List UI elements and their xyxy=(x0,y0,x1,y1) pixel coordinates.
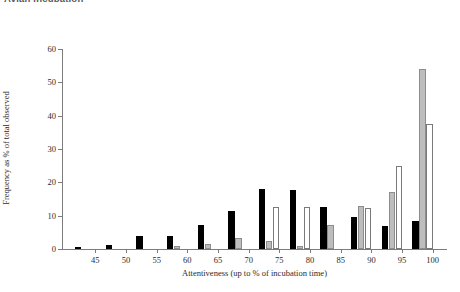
bar xyxy=(327,225,333,249)
bar xyxy=(320,207,326,249)
x-axis-tick xyxy=(126,249,127,253)
bar xyxy=(351,217,357,249)
plot-area: 0102030405060 4550556065707580859095100 xyxy=(62,49,447,249)
bar xyxy=(358,206,364,249)
x-axis-line xyxy=(62,249,447,250)
y-axis-tick xyxy=(58,49,62,50)
y-axis-tick xyxy=(58,216,62,217)
x-axis-label: Attentiveness (up to % of incubation tim… xyxy=(62,268,447,278)
y-axis-tick xyxy=(58,82,62,83)
bar xyxy=(382,226,388,249)
bar xyxy=(365,208,371,249)
y-axis-line xyxy=(62,49,63,249)
x-axis-tick-label: 50 xyxy=(122,255,131,265)
bar xyxy=(304,207,310,249)
bar xyxy=(198,225,204,249)
x-axis-tick-label: 45 xyxy=(91,255,100,265)
x-axis-tick xyxy=(218,249,219,253)
bar xyxy=(174,246,180,249)
x-axis-tick-label: 70 xyxy=(244,255,253,265)
x-axis-tick-label: 60 xyxy=(183,255,192,265)
x-axis-tick xyxy=(95,249,96,253)
bar xyxy=(259,189,265,249)
bar xyxy=(106,245,112,249)
x-axis-tick-label: 55 xyxy=(152,255,161,265)
y-axis-tick xyxy=(58,116,62,117)
y-axis-tick xyxy=(58,249,62,250)
bar xyxy=(297,246,303,249)
x-axis-tick xyxy=(279,249,280,253)
bar xyxy=(412,221,418,249)
bar xyxy=(136,236,142,249)
x-axis-tick xyxy=(371,249,372,253)
x-axis-tick-label: 95 xyxy=(398,255,407,265)
bar xyxy=(228,211,234,249)
x-axis-tick-label: 80 xyxy=(306,255,315,265)
y-axis-tick-label: 30 xyxy=(36,144,56,154)
chart-page: Avian incubation 0102030405060 455055606… xyxy=(0,0,460,292)
y-axis-tick-label: 0 xyxy=(36,244,56,254)
x-axis-tick-label: 90 xyxy=(367,255,376,265)
x-axis-tick xyxy=(341,249,342,253)
bar xyxy=(389,192,395,249)
x-axis-tick xyxy=(157,249,158,253)
bar xyxy=(426,124,432,249)
bar xyxy=(167,236,173,249)
y-axis-tick-label: 20 xyxy=(36,177,56,187)
y-axis-tick-label: 50 xyxy=(36,77,56,87)
y-axis-tick xyxy=(58,149,62,150)
bar xyxy=(419,69,425,249)
bar xyxy=(235,238,241,249)
bar xyxy=(396,166,402,249)
bar xyxy=(290,190,296,249)
page-heading: Avian incubation xyxy=(4,0,83,4)
x-axis-tick-label: 85 xyxy=(336,255,345,265)
bar xyxy=(266,241,272,249)
y-axis-tick-label: 40 xyxy=(36,111,56,121)
x-axis-tick xyxy=(310,249,311,253)
x-axis-tick-label: 65 xyxy=(214,255,223,265)
y-axis-label: Frequency as % of total observed xyxy=(1,91,11,205)
bar xyxy=(273,207,279,249)
y-axis-tick-label: 10 xyxy=(36,211,56,221)
x-axis-tick xyxy=(433,249,434,253)
y-axis-tick xyxy=(58,182,62,183)
x-axis-tick-label: 75 xyxy=(275,255,284,265)
bar xyxy=(205,244,211,249)
bar xyxy=(75,247,81,249)
x-axis-tick xyxy=(249,249,250,253)
x-axis-tick xyxy=(187,249,188,253)
x-axis-tick-label: 100 xyxy=(426,255,439,265)
y-axis-tick-label: 60 xyxy=(36,44,56,54)
x-axis-tick xyxy=(402,249,403,253)
